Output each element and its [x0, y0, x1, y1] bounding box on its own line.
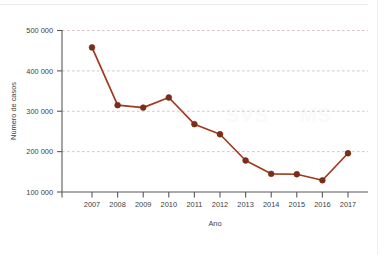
- data-point-marker: [268, 171, 274, 177]
- data-point-marker: [243, 158, 249, 164]
- data-point-marker: [140, 105, 146, 111]
- data-point-marker: [192, 121, 198, 127]
- y-tick-label: 400 000: [26, 67, 53, 76]
- x-tick-label: 2008: [109, 200, 125, 209]
- data-point-marker: [320, 177, 326, 183]
- y-ticks-group: 100 000200 000300 000400 000500 000: [26, 26, 62, 197]
- x-tick-label: 2015: [289, 200, 305, 209]
- chart-figure: SVS MS 100 000200 000300 000400 000500 0…: [0, 0, 384, 255]
- y-tick-label: 300 000: [26, 107, 53, 116]
- data-series-group: [89, 45, 351, 184]
- data-point-marker: [166, 95, 172, 101]
- series-line-path: [92, 47, 348, 180]
- x-tick-label: 2009: [135, 200, 151, 209]
- x-tick-label: 2007: [84, 200, 100, 209]
- y-axis-group: 100 000200 000300 000400 000500 000: [26, 26, 62, 197]
- x-tick-label: 2017: [340, 200, 356, 209]
- line-chart: 100 000200 000300 000400 000500 000 2007…: [0, 0, 384, 255]
- gridlines-group: [62, 31, 368, 152]
- data-point-marker: [217, 131, 223, 137]
- y-tick-label: 200 000: [26, 147, 53, 156]
- x-axis-title: Ano: [208, 219, 221, 228]
- data-point-marker: [345, 150, 351, 156]
- data-point-marker: [294, 171, 300, 177]
- x-tick-label: 2012: [212, 200, 228, 209]
- y-tick-label: 500 000: [26, 26, 53, 35]
- x-tick-label: 2014: [263, 200, 279, 209]
- series-markers-group: [89, 45, 351, 184]
- x-ticks-group: 2007200820092010201120122013201420152016…: [62, 192, 356, 209]
- x-tick-label: 2011: [186, 200, 202, 209]
- y-axis-title: Número de casos: [9, 82, 18, 140]
- data-point-marker: [115, 102, 121, 108]
- x-tick-label: 2013: [237, 200, 253, 209]
- x-tick-label: 2016: [314, 200, 330, 209]
- y-tick-label: 100 000: [26, 188, 53, 197]
- x-tick-label: 2010: [161, 200, 177, 209]
- data-point-marker: [89, 45, 95, 51]
- x-axis-group: 2007200820092010201120122013201420152016…: [62, 192, 368, 209]
